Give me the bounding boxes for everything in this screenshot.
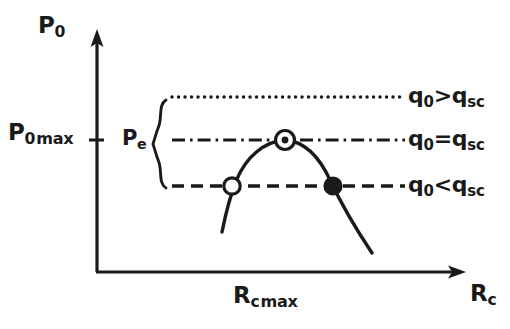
- legend-label-q0-less-qsc: q0<qsc: [408, 174, 485, 196]
- brace-label-pe: Pe: [122, 128, 147, 149]
- brace-label-pe-sub: e: [137, 136, 146, 152]
- marker-filled-circle: [324, 177, 341, 194]
- axis-label-y: P0: [38, 14, 65, 37]
- legend-1-rhs-main: q: [452, 126, 467, 151]
- marker-bullseye: [276, 131, 295, 150]
- legend-label-q0-equal-qsc: q0=qsc: [408, 128, 485, 150]
- pe-brace: [153, 100, 166, 188]
- tick-label-rcmax-main: R: [233, 282, 250, 308]
- legend-2-relation: <: [434, 172, 452, 197]
- legend-0-lhs-sub: 0: [423, 93, 433, 111]
- tick-label-rcmax-sub: c: [250, 292, 259, 311]
- tick-label-rcmax: Rcmax: [233, 284, 298, 307]
- legend-1-relation: =: [434, 126, 452, 151]
- legend-1-lhs-main: q: [408, 126, 423, 151]
- marker-open-circle: [224, 178, 240, 194]
- legend-0-rhs-main: q: [452, 83, 467, 108]
- brace-label-pe-main: P: [122, 126, 137, 150]
- legend-2-rhs-sub: sc: [467, 182, 484, 200]
- axis-label-y-sub: 0: [55, 22, 66, 41]
- legend-label-q0-greater-qsc: q0>qsc: [408, 85, 485, 107]
- y-axis: [91, 29, 104, 272]
- tick-label-p0max-suffix: max: [36, 129, 73, 148]
- axis-label-x: Rc: [470, 282, 496, 305]
- x-axis: [96, 266, 466, 279]
- legend-1-lhs-sub: 0: [423, 136, 433, 154]
- axis-label-y-main: P: [38, 12, 55, 38]
- legend-0-lhs-main: q: [408, 83, 423, 108]
- legend-2-lhs-sub: 0: [423, 182, 433, 200]
- tick-label-rcmax-suffix: max: [260, 292, 297, 311]
- axis-label-x-main: R: [470, 280, 487, 306]
- tick-label-p0max: P0max: [8, 121, 73, 144]
- figure-canvas: P0 Rc P0max Rcmax Pe q0>qsc q0=qsc q0<qs…: [0, 0, 510, 329]
- axis-label-x-sub: c: [487, 290, 496, 309]
- plot-svg: [0, 0, 510, 329]
- legend-2-lhs-main: q: [408, 172, 423, 197]
- tick-label-p0max-sub: 0: [25, 129, 36, 148]
- operating-curve: [222, 140, 372, 253]
- legend-2-rhs-main: q: [452, 172, 467, 197]
- legend-0-relation: >: [434, 83, 452, 108]
- tick-label-p0max-main: P: [8, 119, 25, 145]
- legend-1-rhs-sub: sc: [467, 136, 484, 154]
- legend-0-rhs-sub: sc: [467, 93, 484, 111]
